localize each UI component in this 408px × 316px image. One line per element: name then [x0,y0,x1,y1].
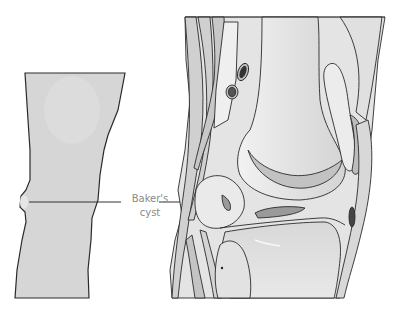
kneecap-shading [44,76,100,144]
bakers-cyst-label: Baker's cyst [124,192,176,220]
label-line-2: cyst [124,206,176,220]
label-line-1: Baker's [124,192,176,206]
popliteal-vein-lumen [229,88,236,97]
knee-cross-section [170,17,385,298]
fibula-nutrient-point [221,267,223,269]
bakers-cyst-illustration [0,0,408,316]
cyst-bulge [20,195,28,209]
leg-exterior-view [15,73,125,298]
infrapatellar-vessel [349,207,355,227]
